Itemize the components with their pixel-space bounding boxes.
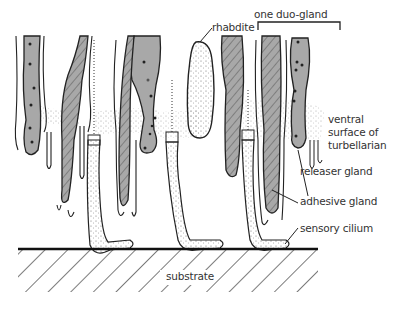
- adhesive-gland-left: [62, 36, 88, 202]
- ventral-surface-label-line2: surface of: [328, 126, 378, 139]
- ventral-surface-label-line1: ventral: [328, 113, 364, 126]
- substrate-label: substrate: [166, 270, 214, 283]
- releaser-gland-label: releaser gland: [300, 165, 372, 178]
- duo-gland-label: one duo-gland: [254, 8, 327, 21]
- ventral-epidermis: [38, 99, 325, 142]
- adhesive-gland-label: adhesive gland: [300, 195, 377, 208]
- duo-gland-diagram: [0, 0, 398, 312]
- ventral-surface-label-line3: turbellarian: [328, 139, 386, 152]
- releaser-gland-left: [23, 36, 40, 155]
- rhabdite: [187, 28, 214, 138]
- sensory-cilium-label: sensory cilium: [300, 222, 373, 235]
- releaser-gland-middle: [130, 36, 160, 153]
- adhesive-gland-right-a: [222, 36, 244, 177]
- rhabdite-label: rhabdite: [212, 21, 254, 34]
